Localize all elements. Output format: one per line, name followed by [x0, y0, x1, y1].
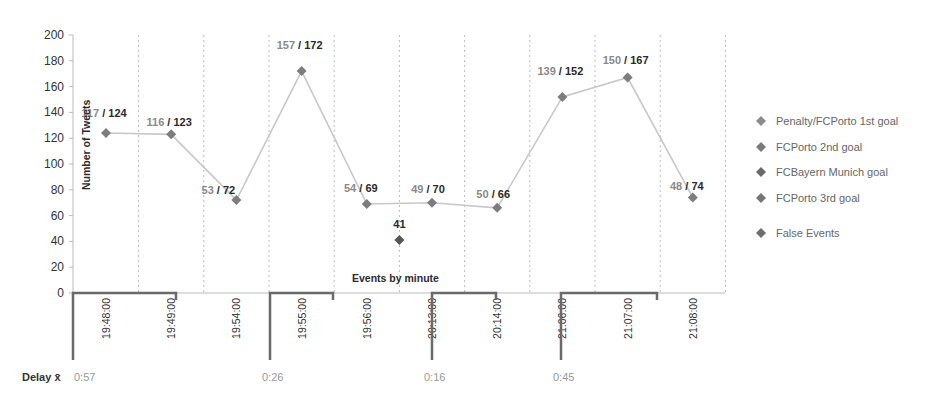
- delay-value: 0:45: [553, 371, 574, 383]
- y-tick-label: 40: [51, 234, 65, 248]
- y-tick-label: 200: [44, 28, 64, 42]
- data-point-marker: [557, 92, 567, 102]
- x-tick-label: 19:55:00: [296, 298, 308, 339]
- data-point-marker: [101, 128, 111, 138]
- data-point-marker: [362, 199, 372, 209]
- x-axis: 19:48:0019:49:0019:54:0019:55:0019:56:00…: [73, 293, 725, 339]
- data-point-marker: [297, 66, 307, 76]
- event-bracket: [561, 293, 657, 360]
- data-point-marker: [427, 198, 437, 208]
- y-tick-label: 60: [51, 209, 65, 223]
- data-label: 139 / 152: [537, 65, 583, 77]
- data-label: 116 / 123: [147, 116, 192, 128]
- y-tick-label: 180: [44, 54, 64, 68]
- legend-item-label: FCPorto 3rd goal: [776, 192, 860, 204]
- y-tick-label: 100: [44, 157, 64, 171]
- x-tick-label: 21:07:00: [622, 298, 634, 339]
- legend-diamond-icon: [756, 142, 766, 152]
- legend-item-label: False Events: [776, 227, 840, 239]
- delay-label: Delay x̄: [22, 371, 61, 383]
- false-event-marker: [394, 235, 404, 245]
- data-label: 150 / 167: [603, 54, 649, 66]
- y-axis: 020406080100120140160180200: [44, 28, 73, 300]
- x-axis-title: Events by minute: [352, 272, 439, 284]
- x-tick-label: 19:54:00: [230, 298, 242, 339]
- legend-item-label: FCPorto 2nd goal: [776, 141, 862, 153]
- event-bracket: [432, 293, 496, 360]
- y-tick-label: 20: [51, 260, 65, 274]
- legend-diamond-icon: [756, 193, 766, 203]
- legend-item-label: Penalty/FCPorto 1st goal: [776, 115, 898, 127]
- data-point-marker: [623, 73, 633, 83]
- legend-diamond-icon: [756, 228, 766, 238]
- delay-value: 0:57: [74, 371, 95, 383]
- data-label: 53 / 72: [202, 184, 236, 196]
- data-label: 48 / 74: [670, 180, 705, 192]
- x-tick-label: 19:56:00: [361, 298, 373, 339]
- delay-value: 0:16: [424, 371, 445, 383]
- data-label: 50 / 66: [476, 188, 510, 200]
- delay-value: 0:26: [262, 371, 283, 383]
- legend-item-label: FCBayern Munich goal: [776, 166, 888, 178]
- y-tick-label: 0: [57, 286, 64, 300]
- x-tick-label: 19:48:00: [100, 298, 112, 339]
- y-tick-label: 160: [44, 80, 64, 94]
- data-point-marker: [688, 193, 698, 203]
- x-tick-label: 19:49:00: [165, 298, 177, 339]
- legend-diamond-icon: [756, 167, 766, 177]
- y-axis-title: Number of Tweets: [80, 100, 92, 190]
- chart-canvas: 020406080100120140160180200 19:48:0019:4…: [0, 0, 936, 411]
- data-label: 54 / 69: [344, 182, 378, 194]
- x-tick-label: 20:14:00: [491, 298, 503, 339]
- y-tick-label: 80: [51, 183, 65, 197]
- vertical-gridlines: [139, 35, 726, 293]
- data-label: 157 / 172: [277, 39, 323, 51]
- legend-diamond-icon: [756, 116, 766, 126]
- x-tick-label: 21:06:00: [556, 298, 568, 339]
- y-tick-label: 140: [44, 105, 64, 119]
- legend: Penalty/FCPorto 1st goalFCPorto 2nd goal…: [756, 115, 898, 239]
- event-bracket: [73, 293, 176, 360]
- data-point-marker: [492, 203, 502, 213]
- y-tick-label: 120: [44, 131, 64, 145]
- x-tick-label: 21:08:00: [687, 298, 699, 339]
- data-label: 49 / 70: [411, 183, 445, 195]
- false-event-label: 41: [393, 218, 405, 230]
